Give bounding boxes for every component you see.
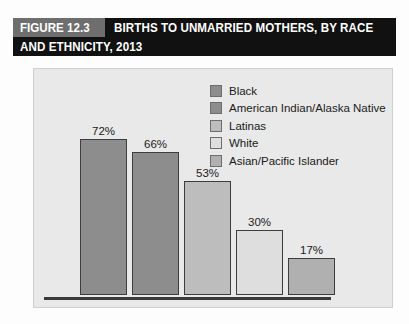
legend-swatch: [210, 85, 222, 97]
bar: [184, 181, 231, 295]
figure-number-tag: FIGURE 12.3: [13, 18, 105, 37]
figure-banner: FIGURE 12.3 BIRTHS TO UNMARRIED MOTHERS,…: [13, 18, 396, 56]
bar: [132, 152, 179, 295]
legend-label: Asian/Pacific Islander: [229, 155, 339, 167]
legend-label: American Indian/Alaska Native: [229, 102, 386, 114]
legend-item: White: [210, 135, 386, 153]
chart-legend: BlackAmerican Indian/Alaska NativeLatina…: [210, 82, 386, 170]
legend-swatch: [210, 137, 222, 149]
bar: [236, 230, 283, 295]
bar-value-label: 30%: [230, 216, 289, 228]
legend-swatch: [210, 102, 222, 114]
legend-label: Black: [229, 85, 257, 97]
plot-area: 72%66%53%30%17% BlackAmerican Indian/Ala…: [34, 69, 392, 307]
legend-label: White: [229, 137, 258, 149]
legend-swatch: [210, 120, 222, 132]
bar-value-label: 17%: [282, 244, 341, 256]
legend-item: Latinas: [210, 117, 386, 135]
bar: [288, 258, 335, 295]
axis-baseline: [44, 297, 331, 300]
legend-label: Latinas: [229, 120, 266, 132]
bar: [80, 139, 127, 295]
chart-panel: 72%66%53%30%17% BlackAmerican Indian/Ala…: [33, 68, 393, 308]
figure-number-label: FIGURE 12.3: [20, 18, 90, 37]
legend-item: Asian/Pacific Islander: [210, 152, 386, 170]
figure-page: FIGURE 12.3 BIRTHS TO UNMARRIED MOTHERS,…: [0, 0, 409, 324]
figure-title-line-2: AND ETHNICITY, 2013: [20, 38, 142, 56]
legend-swatch: [210, 155, 222, 167]
bar-value-label: 72%: [74, 125, 133, 137]
figure-title-line-1-wrap: BIRTHS TO UNMARRIED MOTHERS, BY RACE: [105, 18, 409, 37]
banner-second-line: AND ETHNICITY, 2013: [13, 37, 396, 56]
bar-value-label: 66%: [126, 138, 185, 150]
banner-first-line: FIGURE 12.3 BIRTHS TO UNMARRIED MOTHERS,…: [13, 18, 396, 37]
figure-title-line-1: BIRTHS TO UNMARRIED MOTHERS, BY RACE: [114, 19, 373, 37]
legend-item: Black: [210, 82, 386, 100]
legend-item: American Indian/Alaska Native: [210, 100, 386, 118]
